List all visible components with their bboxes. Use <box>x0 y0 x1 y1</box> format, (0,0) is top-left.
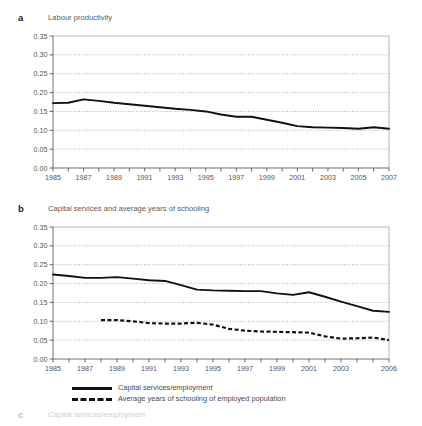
ytick-label: 0.30 <box>34 50 48 59</box>
ytick-label: 0.35 <box>34 223 48 232</box>
ytick-label: 0.20 <box>34 279 48 288</box>
xtick-label: 2001 <box>289 173 305 182</box>
panel-a-plot: 0.000.050.100.150.200.250.300.3519851987… <box>0 28 422 193</box>
panel-a-title: Labour productivity <box>48 13 112 22</box>
panel-b-plot: 0.000.050.100.150.200.250.300.3519851987… <box>0 219 422 377</box>
chart-b-canvas: 0.000.050.100.150.200.250.300.3519851987… <box>0 219 422 377</box>
xtick-label: 2003 <box>320 173 336 182</box>
chart-a-canvas: 0.000.050.100.150.200.250.300.3519851987… <box>0 28 422 193</box>
legend-swatch-dashed-icon <box>72 398 112 401</box>
ytick-label: 0.35 <box>34 32 48 41</box>
series-line-dashed <box>101 320 389 340</box>
ytick-label: 0.05 <box>34 336 48 345</box>
legend-item-schooling: Average years of schooling of employed p… <box>0 394 422 405</box>
ytick-label: 0.15 <box>34 298 48 307</box>
panel-c-title: Capital services/employment <box>48 410 145 419</box>
ytick-label: 0.25 <box>34 69 48 78</box>
xtick-label: 1991 <box>141 364 157 373</box>
xtick-label: 2006 <box>381 364 397 373</box>
xtick-label: 1995 <box>198 173 214 182</box>
legend-swatch-solid-icon <box>72 387 112 390</box>
ytick-label: 0.30 <box>34 241 48 250</box>
xtick-label: 1999 <box>269 364 285 373</box>
xtick-label: 2001 <box>301 364 317 373</box>
xtick-label: 2003 <box>333 364 349 373</box>
xtick-label: 1985 <box>45 173 61 182</box>
ytick-label: 0.05 <box>34 145 48 154</box>
ytick-label: 0.00 <box>34 355 48 364</box>
xtick-label: 1993 <box>173 364 189 373</box>
legend-label-schooling: Average years of schooling of employed p… <box>118 394 286 403</box>
panel-a-header: a Labour productivity <box>0 12 422 28</box>
panel-b-title: Capital services and average years of sc… <box>48 204 209 213</box>
panel-a: a Labour productivity 0.000.050.100.150.… <box>0 12 422 193</box>
panel-b-letter: b <box>18 203 24 214</box>
panel-c-letter: c <box>18 409 23 420</box>
xtick-label: 1999 <box>259 173 275 182</box>
xtick-label: 1987 <box>76 173 92 182</box>
xtick-label: 1989 <box>106 173 122 182</box>
panel-a-letter: a <box>18 12 23 23</box>
ytick-label: 0.15 <box>34 107 48 116</box>
xtick-label: 1993 <box>167 173 183 182</box>
panel-c-cutoff: c Capital services/employment <box>0 409 422 426</box>
xtick-label: 1989 <box>109 364 125 373</box>
series-line-solid <box>53 275 389 312</box>
xtick-label: 1991 <box>137 173 153 182</box>
ytick-label: 0.20 <box>34 88 48 97</box>
xtick-label: 1995 <box>205 364 221 373</box>
chart-legend: Capital services/employment Average year… <box>0 383 422 405</box>
panel-b: b Capital services and average years of … <box>0 203 422 377</box>
legend-label-capital-services: Capital services/employment <box>118 383 212 392</box>
panel-b-header: b Capital services and average years of … <box>0 203 422 219</box>
xtick-label: 1997 <box>237 364 253 373</box>
xtick-label: 1985 <box>45 364 61 373</box>
xtick-label: 2005 <box>350 173 366 182</box>
ytick-label: 0.25 <box>34 260 48 269</box>
series-line-solid <box>53 99 389 128</box>
xtick-label: 1997 <box>228 173 244 182</box>
ytick-label: 0.10 <box>34 126 48 135</box>
xtick-label: 1987 <box>77 364 93 373</box>
ytick-label: 0.00 <box>34 164 48 173</box>
ytick-label: 0.10 <box>34 317 48 326</box>
legend-item-capital-services: Capital services/employment <box>0 383 422 394</box>
xtick-label: 2007 <box>381 173 397 182</box>
